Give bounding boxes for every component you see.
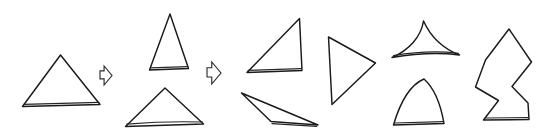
figure-canvas (0, 0, 539, 139)
shape-transformation-figure: Triangle shape transformation sequence A… (0, 0, 539, 139)
